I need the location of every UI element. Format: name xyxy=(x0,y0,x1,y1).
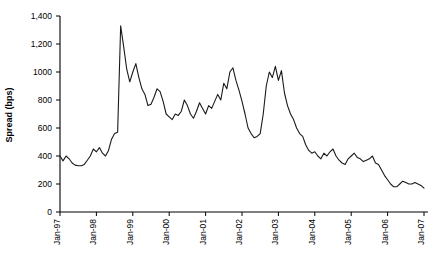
x-tick-label: Jan-04 xyxy=(307,219,317,245)
x-tick-label: Jan-02 xyxy=(234,219,244,245)
y-tick-label: 1,400 xyxy=(31,11,53,21)
y-tick-label: 800 xyxy=(38,95,52,105)
chart-background xyxy=(0,0,440,262)
y-tick-label: 1,200 xyxy=(31,39,53,49)
y-tick-label: 400 xyxy=(38,151,52,161)
y-tick-label: 600 xyxy=(38,123,52,133)
chart-container: Spread (bps) 020040060080010001,2001,400… xyxy=(0,0,440,262)
y-tick-label: 1000 xyxy=(33,67,52,77)
y-tick-label: 0 xyxy=(47,207,52,217)
x-tick-label: Jan-97 xyxy=(52,219,62,245)
x-tick-label: Jan-99 xyxy=(125,219,135,245)
x-tick-label: Jan-06 xyxy=(380,219,390,245)
x-tick-label: Jan-07 xyxy=(416,219,426,245)
spread-line-chart: Spread (bps) 020040060080010001,2001,400… xyxy=(0,0,440,262)
y-tick-label: 200 xyxy=(38,179,52,189)
x-tick-label: Jan-03 xyxy=(270,219,280,245)
x-tick-label: Jan-05 xyxy=(343,219,353,245)
y-axis-title: Spread (bps) xyxy=(4,87,14,142)
x-tick-label: Jan-00 xyxy=(161,219,171,245)
x-tick-label: Jan-98 xyxy=(88,219,98,245)
x-tick-label: Jan-01 xyxy=(198,219,208,245)
